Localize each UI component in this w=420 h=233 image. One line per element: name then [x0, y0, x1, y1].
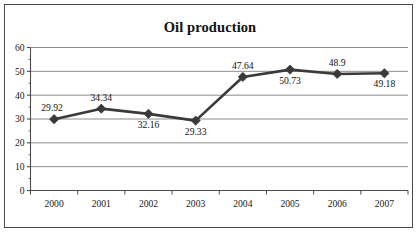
chart-figure: Oil production 0102030405060 20002001200… [0, 0, 420, 233]
x-axis-tick-label: 2006 [328, 198, 347, 209]
data-point-label: 32.16 [138, 119, 160, 130]
y-axis-tick-label: 50 [15, 66, 25, 77]
x-axis-tick-label: 2002 [139, 198, 158, 209]
x-axis-group: 20002001200220032004200520062007 [31, 191, 409, 210]
data-point-label: 49.18 [374, 78, 396, 89]
gridlines-group [31, 48, 409, 167]
data-point-marker [97, 104, 106, 113]
data-point-label: 34.34 [90, 92, 112, 103]
line-chart-plot: 0102030405060 20002001200220032004200520… [0, 0, 420, 233]
data-point-label: 29.33 [185, 126, 207, 137]
y-axis-tick-label: 60 [15, 42, 25, 53]
data-point-marker [285, 65, 294, 74]
y-axis-tick-label: 40 [15, 90, 25, 101]
data-point-label: 47.64 [232, 60, 254, 71]
x-axis-tick-label: 2004 [233, 198, 252, 209]
data-point-label: 29.92 [41, 102, 63, 113]
data-point-label: 50.73 [279, 75, 301, 86]
x-axis-tick-label: 2005 [280, 198, 299, 209]
y-axis-tick-label: 10 [15, 161, 25, 172]
y-axis-group: 0102030405060 [15, 42, 31, 196]
data-point-marker [380, 69, 389, 78]
data-labels-group: 29.9234.3432.1629.3347.6450.7348.949.18 [41, 57, 395, 137]
y-axis-tick-label: 30 [15, 113, 25, 124]
x-axis-tick-label: 2003 [186, 198, 205, 209]
y-axis-tick-label: 0 [20, 185, 25, 196]
x-axis-tick-label: 2001 [92, 198, 111, 209]
data-point-marker [144, 109, 153, 118]
x-axis-tick-label: 2007 [375, 198, 394, 209]
data-point-marker [49, 115, 58, 124]
data-point-marker [333, 69, 342, 78]
y-axis-tick-label: 20 [15, 137, 25, 148]
x-axis-tick-label: 2000 [45, 198, 64, 209]
data-point-label: 48.9 [329, 57, 346, 68]
